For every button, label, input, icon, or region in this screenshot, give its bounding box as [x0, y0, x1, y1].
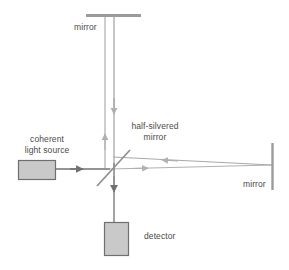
- detector-label: detector: [144, 231, 176, 242]
- mirror-right-label: mirror: [243, 179, 266, 190]
- half-silvered-mirror-label: half-silvered mirror: [124, 121, 186, 143]
- mirror-top-label: mirror: [74, 22, 97, 33]
- detector: [105, 223, 129, 256]
- coherent-light-source-label: coherent light source: [16, 134, 78, 156]
- beam-splitter-to-right-mirror: [110, 165, 272, 169]
- coherent-light-source: [19, 161, 56, 180]
- michelson-interferometer-diagram: mirror coherent light source half-silver…: [0, 0, 289, 270]
- beam-right-mirror-to-splitter: [113, 157, 272, 165]
